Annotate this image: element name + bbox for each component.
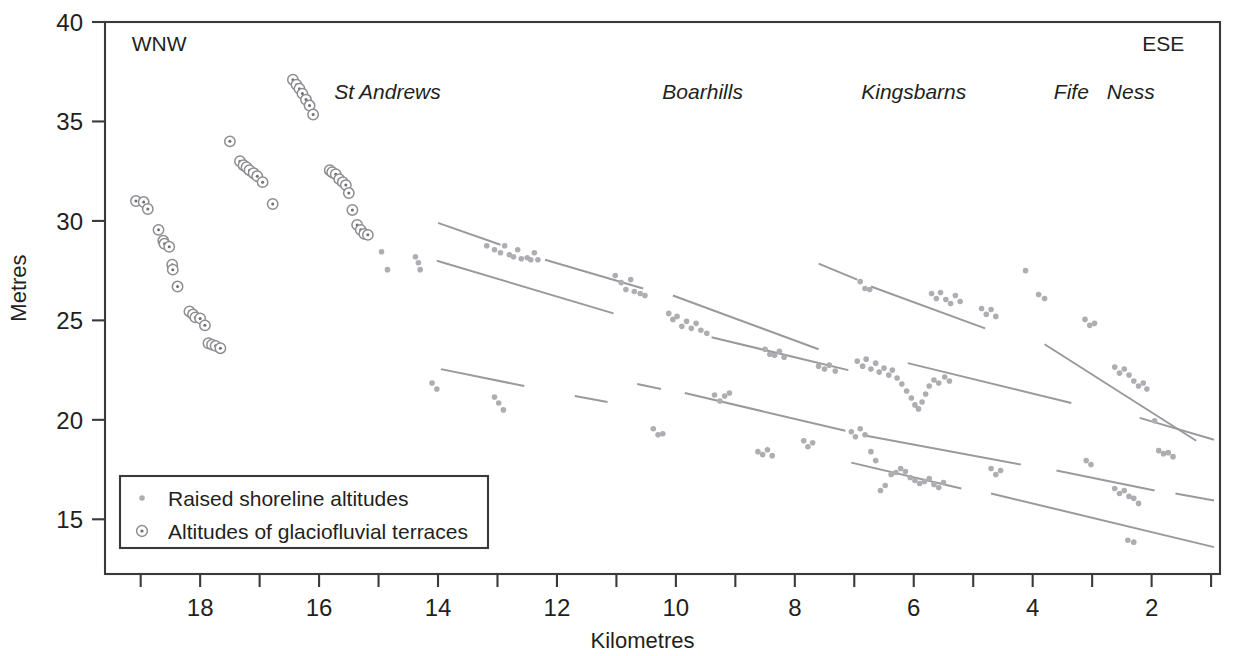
terrace-point (308, 109, 318, 119)
shoreline-point (1125, 537, 1131, 543)
shoreline-point (642, 293, 648, 299)
legend-label: Altitudes of glaciofluvial terraces (168, 520, 468, 543)
shoreline-point (712, 392, 718, 398)
shoreline-point (650, 426, 656, 432)
shoreline-point (765, 447, 771, 453)
x-axis-title: Kilometres (591, 628, 695, 653)
terrace-point (225, 136, 235, 146)
shoreline-point (948, 301, 954, 307)
shoreline-point (660, 431, 666, 437)
trend-line-segment (545, 260, 643, 289)
shoreline-point (1112, 486, 1118, 492)
shoreline-point (943, 297, 949, 303)
x-axis-ticks (141, 574, 1211, 587)
shoreline-point (849, 429, 855, 435)
shoreline-point (1156, 448, 1162, 454)
shoreline-point (511, 254, 517, 260)
shoreline-point (1023, 268, 1029, 274)
shoreline-point (919, 399, 925, 405)
shoreline-point (501, 407, 507, 413)
label-ness: Ness (1107, 80, 1155, 103)
shoreline-point (882, 483, 888, 489)
shoreline-point (767, 351, 773, 357)
shoreline-point (684, 319, 690, 325)
trend-line-segment (866, 436, 1021, 465)
shoreline-point (886, 372, 892, 378)
x-axis-tick-labels: 18161412108642 (187, 594, 1158, 621)
terrace-point (168, 264, 178, 274)
legend-marker-circle-dot (137, 526, 148, 537)
shoreline-point (816, 363, 822, 369)
shoreline-point (623, 287, 629, 293)
x-tick-label: 10 (663, 594, 690, 621)
shoreline-point (934, 296, 940, 302)
shoreline-point (1165, 450, 1171, 456)
shoreline-point (1082, 317, 1088, 323)
shoreline-point (926, 476, 932, 482)
label-fife: Fife (1054, 80, 1089, 103)
y-tick-label: 30 (56, 208, 83, 235)
trend-line-segment (819, 264, 858, 280)
shoreline-point (777, 348, 783, 354)
shoreline-point (1092, 321, 1098, 327)
trend-lines-layer (437, 223, 1214, 547)
shoreline-point (1136, 501, 1142, 507)
shoreline-point (868, 449, 874, 455)
shoreline-point (772, 352, 778, 358)
shoreline-point (853, 434, 859, 440)
shoreline-point (941, 480, 947, 486)
trend-line-segment (1045, 344, 1197, 440)
shoreline-point (1112, 364, 1118, 370)
shoreline-point (923, 391, 929, 397)
shoreline-point (781, 354, 787, 360)
x-tick-label: 2 (1145, 594, 1158, 621)
shoreline-point (631, 289, 637, 295)
shoreline-point (993, 472, 999, 478)
terrace-point (143, 204, 153, 214)
shoreline-point (679, 324, 685, 330)
shoreline-point (535, 257, 541, 263)
shoreline-point (1042, 296, 1048, 302)
shoreline-point (878, 488, 884, 494)
shoreline-point (929, 291, 935, 297)
y-tick-label: 25 (56, 307, 83, 334)
shoreline-points-layer (379, 243, 1176, 545)
shoreline-point (722, 393, 728, 399)
chart-svg: 18161412108642 152025303540 WNWESESt And… (0, 0, 1242, 656)
terrace-point (344, 188, 354, 198)
y-tick-label: 15 (56, 506, 83, 533)
shoreline-point (769, 453, 775, 459)
shoreline-point (1117, 491, 1123, 497)
shoreline-point (916, 406, 922, 412)
shoreline-point (912, 478, 918, 484)
shoreline-point (988, 307, 994, 313)
terrace-point (347, 205, 357, 215)
shoreline-point (881, 365, 887, 371)
shoreline-point (484, 243, 490, 249)
trend-line-segment (1140, 418, 1214, 440)
shoreline-point (492, 247, 498, 253)
shoreline-point (379, 249, 385, 255)
shoreline-point (873, 360, 879, 366)
shoreline-point (1131, 378, 1137, 384)
trend-line-segment (685, 393, 846, 431)
shoreline-point (827, 362, 833, 368)
shoreline-point (1121, 488, 1127, 494)
shoreline-point (1083, 458, 1089, 464)
shoreline-point (890, 367, 896, 373)
shoreline-point (698, 328, 704, 334)
shoreline-point (666, 311, 672, 317)
shoreline-point (693, 321, 699, 327)
shoreline-point (518, 256, 524, 262)
terrace-point (172, 281, 182, 291)
shoreline-point (810, 440, 816, 446)
shoreline-point (416, 260, 422, 266)
shoreline-point (947, 378, 953, 384)
trend-line-segment (637, 384, 661, 389)
shoreline-point (1131, 539, 1137, 545)
legend-label: Raised shoreline altitudes (168, 487, 408, 510)
shoreline-point (1036, 292, 1042, 298)
shoreline-point (689, 326, 695, 332)
shoreline-point (674, 314, 680, 320)
shoreline-point (894, 375, 900, 381)
